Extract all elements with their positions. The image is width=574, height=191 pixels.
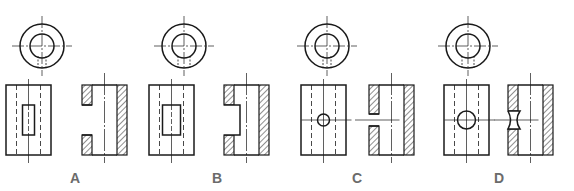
section-view	[494, 73, 553, 163]
technical-drawing	[0, 0, 574, 191]
hatched-wall	[117, 85, 127, 155]
option-label-c: C	[342, 170, 372, 186]
section-view	[82, 73, 127, 163]
front-view	[301, 79, 352, 163]
figure-a	[6, 16, 127, 163]
hatched-wall	[508, 129, 518, 155]
hatched-wall	[82, 135, 92, 155]
hatched-wall	[259, 85, 269, 155]
section-view	[224, 73, 269, 163]
front-view	[149, 79, 194, 163]
front-view	[6, 79, 51, 163]
option-label-d: D	[484, 170, 514, 186]
hole-cutout-edges	[82, 105, 92, 135]
figure-c	[297, 16, 414, 163]
hatched-wall	[224, 85, 234, 105]
front-view	[444, 79, 495, 163]
top-view	[297, 16, 357, 76]
hatched-wall	[82, 85, 92, 105]
figure-b	[149, 16, 269, 163]
hatched-wall	[543, 85, 553, 155]
hatched-wall	[404, 85, 414, 155]
hatched-wall	[369, 126, 379, 155]
hatched-wall	[508, 85, 518, 111]
option-label-a: A	[60, 170, 90, 186]
hatched-wall	[369, 85, 379, 114]
section-view	[355, 73, 414, 163]
hatched-wall	[224, 135, 234, 155]
top-view	[154, 16, 214, 76]
top-view	[438, 16, 498, 76]
top-view	[12, 16, 72, 76]
figure-d	[438, 16, 553, 163]
option-label-b: B	[202, 170, 232, 186]
slot-cutout	[224, 105, 240, 135]
